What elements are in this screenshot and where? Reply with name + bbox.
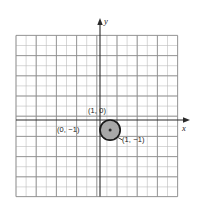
point-label-0-minus1: (0, −1): [57, 126, 80, 134]
grid-major-lines: [16, 35, 178, 196]
point-label-1-0: (1, 0): [88, 107, 106, 115]
shaded-circle: [100, 120, 120, 140]
coordinate-grid-figure: (1, 0) (0, −1) (1, −1) y x: [0, 0, 204, 217]
point-label-1-minus1: (1, −1): [122, 136, 145, 144]
y-axis-label: y: [104, 17, 108, 26]
x-axis-label: x: [182, 124, 186, 133]
circle-center-dot: [109, 129, 112, 132]
